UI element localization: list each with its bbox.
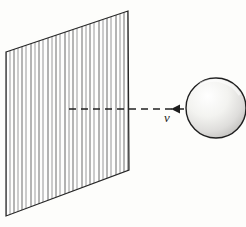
- hatched-plane: [6, 0, 129, 227]
- sphere: [186, 78, 246, 138]
- velocity-label: v: [164, 111, 170, 124]
- arrow-head-icon: [171, 105, 180, 114]
- physics-figure: v: [0, 0, 246, 227]
- figure-canvas: [0, 0, 246, 227]
